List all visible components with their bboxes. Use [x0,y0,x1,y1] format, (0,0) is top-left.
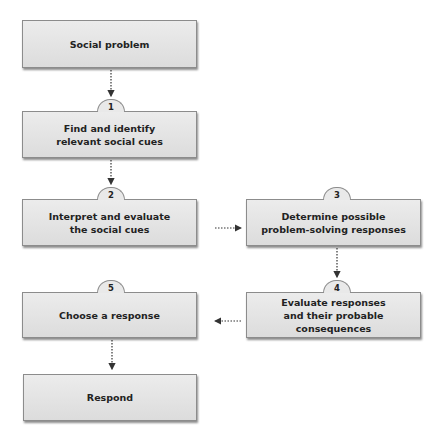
connector-layer [0,0,443,442]
